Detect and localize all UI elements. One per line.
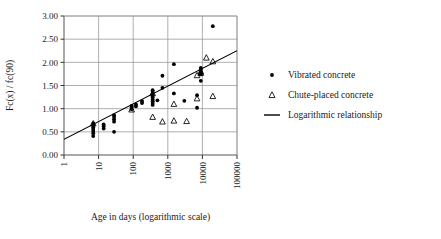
y-tick-label: 1.00 [42, 104, 58, 114]
data-point-vibrated [112, 130, 116, 134]
data-point-vibrated [134, 103, 138, 107]
x-tick-label: 10000 [198, 162, 208, 185]
data-point-vibrated [102, 123, 106, 127]
chart-figure: 0.000.501.001.502.002.503.00110100100010… [0, 0, 441, 239]
data-point-chute-placed [184, 118, 190, 123]
data-point-vibrated [211, 24, 215, 28]
x-tick-label: 10 [94, 162, 104, 172]
data-point-chute-placed [160, 119, 166, 124]
y-tick-label: 1.50 [42, 81, 58, 91]
data-point-vibrated [161, 86, 165, 90]
y-tick-label: 2.50 [42, 34, 58, 44]
data-point-vibrated [112, 113, 116, 117]
y-tick-label: 3.00 [42, 11, 58, 21]
chart-legend: Vibrated concreteChute-placed concreteLo… [264, 70, 382, 120]
legend-marker-filled-circle-icon [270, 73, 274, 77]
y-tick-label: 2.00 [42, 58, 58, 68]
data-point-vibrated [182, 99, 186, 103]
data-point-chute-placed [171, 101, 177, 106]
y-tick-label: 0.00 [42, 150, 58, 160]
y-axis-title: Fc(x) / fc(90) [5, 60, 16, 111]
data-layer [64, 24, 237, 139]
x-tick-label: 100000 [232, 162, 242, 190]
data-point-vibrated [172, 91, 176, 95]
data-point-vibrated [172, 62, 176, 66]
grid-lines [64, 16, 237, 155]
x-tick-label: 1 [59, 162, 69, 167]
x-axis: 110100100010000100000 [59, 155, 242, 189]
x-axis-title: Age in days (logarithmic scale) [91, 212, 210, 223]
data-point-chute-placed [210, 93, 216, 98]
x-tick-label: 1000 [163, 162, 173, 181]
data-point-chute-placed [150, 114, 156, 119]
data-point-chute-placed [194, 95, 200, 100]
y-tick-label: 0.50 [42, 127, 58, 137]
data-point-vibrated [199, 79, 203, 83]
legend-label: Vibrated concrete [288, 70, 355, 80]
data-point-chute-placed [171, 118, 177, 123]
legend-marker-open-triangle-icon [269, 92, 275, 98]
data-point-chute-placed [203, 55, 209, 60]
data-point-vibrated [161, 74, 165, 78]
series-filled-circle [91, 24, 214, 138]
series-open-triangle [90, 55, 215, 126]
data-point-vibrated [155, 98, 159, 102]
legend-label: Chute-placed concrete [288, 90, 373, 100]
legend-label: Logarithmic relationship [288, 110, 382, 120]
scatter-chart: 0.000.501.001.502.002.503.00110100100010… [0, 0, 441, 239]
data-point-vibrated [140, 99, 144, 103]
data-point-vibrated [195, 106, 199, 110]
y-axis: 0.000.501.001.502.002.503.00 [42, 11, 64, 160]
x-tick-label: 100 [128, 162, 138, 176]
